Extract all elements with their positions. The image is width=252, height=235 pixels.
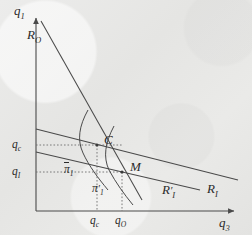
y-tick-label-qI: qI [12,166,20,180]
curve-label-R-I-prime: R′I [162,183,175,199]
isoprofit-curves [80,110,133,205]
curve-label-pi-prime-1: π′1 [92,183,104,197]
figure-canvas: q1 q3 qc qI qc qO RO RI R′I π1 π′1 C M [0,0,252,235]
overbar [64,162,69,163]
point-C-marker [95,143,98,146]
point-label-M: M [130,160,141,173]
curve-label-R-O: RO [27,28,41,44]
x-axis-label: q3 [219,216,230,232]
x-tick-label-qO: qO [115,215,126,229]
axis-group [36,18,234,211]
x-tick-label-qc: qc [90,215,99,229]
curve-pi-bar-1 [80,110,108,190]
point-label-C: C [104,133,113,146]
curve-label-pi-bar-1: π1 [64,164,74,178]
point-M-marker [120,170,123,173]
y-axis-label: q1 [14,4,25,20]
y-tick-label-qc: qc [12,139,21,153]
curve-label-R-I: RI [207,182,218,198]
